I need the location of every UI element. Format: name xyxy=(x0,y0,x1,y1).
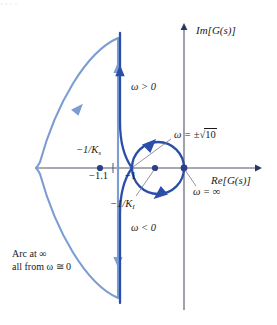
minus-one-over-KI-main: −1/K xyxy=(110,198,132,209)
omega-sqrt10-label: ω = ±√10 xyxy=(174,128,217,141)
loop-direction-arrow-top-icon xyxy=(144,141,154,151)
nyquist-branch-negative-omega xyxy=(120,168,132,303)
point-label-minus-1-1: −1.1 xyxy=(89,170,108,182)
minus-one-over-Ks-main: −1/K xyxy=(76,144,98,155)
imaginary-axis-arrow-icon xyxy=(181,23,188,30)
omega-positive-label: ω > 0 xyxy=(131,81,156,93)
arc-at-infinity-lower xyxy=(36,168,118,298)
omega-negative-label: ω < 0 xyxy=(131,222,156,234)
real-axis-label: Re[G(s)] xyxy=(211,174,251,187)
origin-point xyxy=(181,165,188,172)
omega-sqrt10-prefix: ω = ± xyxy=(174,129,200,140)
omega-sqrt10-value: 10 xyxy=(204,128,217,141)
nyquist-plot-canvas xyxy=(0,0,277,325)
arc-direction-arrow-upper-icon xyxy=(73,106,81,114)
caption-line-2: all from ω ≅ 0 xyxy=(12,261,71,273)
minus-one-over-Ks-subscript: s xyxy=(98,149,101,157)
real-axis-arrow-icon xyxy=(255,165,262,172)
imaginary-axis-label: Im[G(s)] xyxy=(196,24,236,37)
loop-direction-arrow-bottom-icon xyxy=(156,188,166,197)
minus-one-over-Ks-label: −1/Ks xyxy=(76,144,101,157)
minus-one-over-KI-subscript: I xyxy=(132,203,134,211)
minus-1-over-KI-point xyxy=(152,165,158,171)
nyquist-figure: • • • • xyxy=(0,0,277,325)
point-label-minus-1: −1 xyxy=(125,170,136,182)
leader-omega-infinity xyxy=(185,170,196,186)
omega-infinity-label: ω = ∞ xyxy=(193,186,220,198)
nyquist-branch-positive-omega xyxy=(120,33,132,168)
minus-one-over-KI-label: −1/KI xyxy=(110,198,135,211)
caption-line-1: Arc at ∞ xyxy=(12,248,46,260)
